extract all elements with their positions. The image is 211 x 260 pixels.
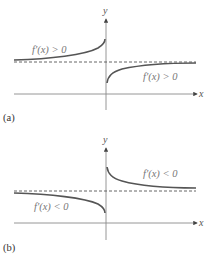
diagram-canvas: x y f′(x) > 0 f′(x) > 0 (a) x y f′(x) < … (0, 0, 211, 260)
panel-b: x y f′(x) < 0 f′(x) < 0 (b) (3, 134, 204, 254)
right-branch-label-b: f′(x) < 0 (143, 168, 178, 180)
x-axis-label-a: x (198, 88, 204, 99)
left-branch-label-b: f′(x) < 0 (34, 201, 69, 213)
y-axis-label-b: y (102, 134, 108, 145)
left-branch-label-a: f′(x) > 0 (32, 44, 67, 56)
panel-a: x y f′(x) > 0 f′(x) > 0 (a) (3, 5, 204, 124)
right-branch-label-a: f′(x) > 0 (143, 71, 178, 83)
y-axis-label-a: y (102, 5, 108, 16)
panel-caption-b: (b) (3, 242, 16, 254)
x-axis-label-b: x (198, 217, 204, 228)
panel-caption-a: (a) (3, 112, 15, 124)
